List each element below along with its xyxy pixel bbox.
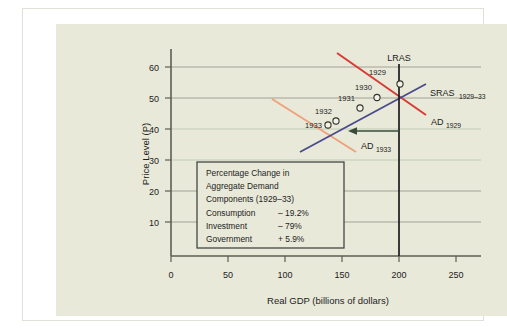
legend-row-consumption-value: – 19.2%	[278, 208, 309, 218]
x-tick-label-0: 0	[168, 270, 173, 280]
year-label-1932: 1932	[315, 107, 332, 116]
y-tick-marks	[165, 67, 171, 222]
ad-1933-label-subscript: 1933	[376, 146, 391, 153]
x-tick-label-250: 250	[448, 270, 463, 280]
x-tick-label-150: 150	[334, 270, 349, 280]
y-tick-label-20: 20	[149, 187, 159, 197]
year-label-1929: 1929	[369, 68, 386, 77]
lras-label: LRAS	[387, 53, 411, 63]
point-1929	[397, 81, 403, 87]
ad-shift-arrow-head	[348, 127, 357, 135]
ad-1929-label-group: AD 1929	[431, 117, 461, 129]
x-tick-labels: 0 50 100 150 200 250	[168, 270, 463, 280]
year-label-1931: 1931	[338, 94, 355, 103]
figure-outer-frame: 60 50 40 30 20 10 0 50 100 150 200 250	[22, 8, 484, 321]
ad-1929-label-subscript: 1929	[446, 122, 461, 129]
x-tick-label-50: 50	[223, 270, 233, 280]
ad-1933-label: AD	[361, 141, 374, 151]
x-tick-label-100: 100	[277, 270, 292, 280]
x-axis-title: Real GDP (billions of dollars)	[267, 295, 389, 306]
sras-label-subscript: 1929–33	[459, 93, 486, 100]
legend-title-line-3: Components (1929–33)	[206, 194, 294, 204]
legend-title-line-2: Aggregate Demand	[206, 181, 279, 191]
year-label-1930: 1930	[355, 83, 372, 92]
y-axis-title: Price Level (P)	[140, 123, 151, 185]
point-1933	[325, 122, 331, 128]
year-label-1933: 1933	[305, 121, 322, 130]
legend-row-investment-label: Investment	[206, 221, 248, 231]
percentage-change-box: Percentage Change in Aggregate Demand Co…	[197, 162, 344, 248]
aggregate-demand-supply-chart: 60 50 40 30 20 10 0 50 100 150 200 250	[56, 24, 507, 316]
figure-panel: 60 50 40 30 20 10 0 50 100 150 200 250	[56, 24, 507, 316]
y-tick-label-10: 10	[149, 218, 159, 228]
legend-row-government-label: Government	[206, 234, 253, 244]
x-tick-label-200: 200	[391, 270, 406, 280]
x-tick-marks	[171, 256, 456, 262]
legend-title-line-1: Percentage Change in	[206, 168, 290, 178]
ad-1929-curve	[337, 53, 426, 115]
ad-1933-label-group: AD 1933	[361, 141, 391, 153]
point-1932	[333, 118, 339, 124]
point-1930	[374, 94, 380, 100]
ad-shift-arrow	[348, 127, 399, 135]
y-tick-label-50: 50	[149, 94, 159, 104]
ad-1929-label: AD	[431, 117, 444, 127]
legend-row-consumption-label: Consumption	[206, 208, 256, 218]
y-tick-label-60: 60	[149, 63, 159, 73]
legend-row-government-value: + 5.9%	[278, 234, 305, 244]
sras-label: SRAS	[430, 88, 455, 98]
point-1931	[357, 105, 363, 111]
legend-row-investment-value: – 79%	[278, 221, 302, 231]
